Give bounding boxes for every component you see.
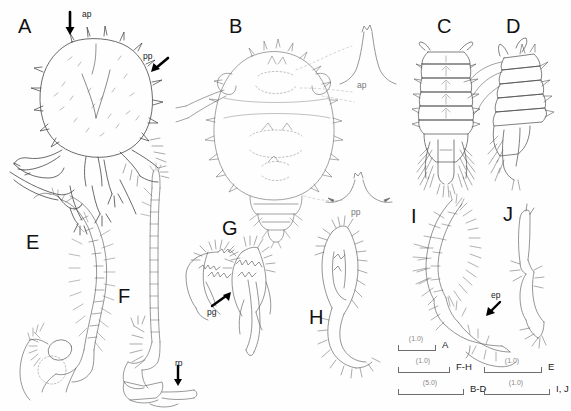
scale-bar-ij-value: (1.0) (484, 379, 548, 386)
panel-letter-a: A (18, 16, 32, 36)
panel-b-inset-ap (340, 25, 396, 84)
panel-h-artwork (315, 216, 380, 378)
panel-e-artwork (20, 188, 115, 400)
annotation-label-pg-g: pg (207, 308, 216, 317)
panel-c-artwork (412, 42, 480, 197)
figure-plate: A B C D E F G H I J ap pp ap pp pg rp ep… (0, 0, 571, 411)
panel-letter-e: E (26, 232, 40, 252)
annotation-label-ap-b: ap (357, 81, 366, 90)
panel-j-artwork (510, 204, 546, 348)
scale-bar-a: (1.0) A (398, 336, 434, 356)
panel-letter-d: D (506, 16, 521, 36)
panel-d-artwork (464, 38, 554, 190)
scale-bar-fh-panels: F-H (456, 362, 472, 372)
annotation-label-rp-f: rp (175, 359, 183, 368)
panel-letter-g: G (222, 218, 238, 238)
annotation-arrows (66, 12, 501, 386)
arrow-pp-a (151, 58, 168, 72)
scale-bar-ij: (1.0) I, J (484, 380, 548, 400)
scale-bar-bd-value: (5.0) (398, 379, 462, 386)
panel-b-inset-pp (326, 172, 392, 202)
scale-bar-a-rule (398, 345, 436, 351)
panel-letter-i: I (411, 206, 417, 226)
arrow-ep-i (486, 302, 500, 316)
scale-bar-bd: (5.0) B-D (398, 380, 462, 400)
scale-bar-bd-rule (398, 389, 464, 395)
annotation-label-ap-a: ap (82, 10, 91, 19)
annotation-label-pp-b: pp (351, 208, 360, 217)
scale-bar-e: (1.0) E (484, 358, 540, 378)
panel-letter-b: B (229, 16, 243, 36)
arrow-pg-g (212, 292, 231, 306)
scale-bar-fh-rule (398, 367, 450, 373)
scale-bar-e-panels: E (548, 362, 554, 372)
panel-letter-j: J (503, 204, 514, 224)
annotation-label-pp-a: pp (143, 52, 152, 61)
scale-bar-a-value: (1.0) (398, 335, 434, 342)
arrow-rp-f (174, 366, 182, 386)
scale-bar-e-value: (1.0) (484, 357, 540, 364)
panel-b-artwork (176, 39, 354, 248)
scale-bar-fh-value: (1.0) (398, 357, 448, 364)
scale-bar-e-rule (484, 367, 542, 373)
scale-bar-a-panels: A (442, 340, 448, 350)
scale-bar-ij-rule (484, 389, 550, 395)
panel-g-artwork (186, 236, 275, 356)
scale-bar-group: (1.0) A (1.0) F-H (5.0) B-D (1.0) E (1.0… (396, 336, 568, 398)
arrow-ap-a (66, 12, 75, 35)
panel-f-artwork (123, 163, 197, 407)
panel-letter-f: F (118, 286, 131, 306)
scale-bar-fh: (1.0) F-H (398, 358, 448, 378)
panel-letter-c: C (437, 16, 452, 36)
panel-letter-h: H (309, 307, 324, 327)
scale-bar-ij-panels: I, J (556, 384, 569, 394)
annotation-label-ep-i: ep (491, 291, 500, 300)
